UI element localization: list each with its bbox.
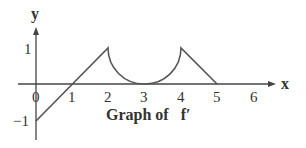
x-axis-arrow-icon [268, 81, 276, 87]
chart-title: Graph of f′ [106, 106, 191, 124]
chart-title-text: Graph of [106, 106, 169, 124]
x-tick-0: 0 [32, 89, 40, 105]
x-tick-6: 6 [250, 89, 258, 105]
y-tick-1: 1 [24, 41, 32, 57]
x-tick-3: 3 [140, 89, 148, 105]
y-axis-label: y [31, 5, 39, 23]
chart-title-function: f′ [181, 106, 191, 123]
y-tick-neg1: −1 [13, 113, 29, 129]
x-axis-label: x [281, 75, 289, 92]
y-axis-arrow-icon [33, 27, 39, 35]
x-tick-2: 2 [104, 89, 112, 105]
graph-of-f-prime: x y 0 1 2 3 4 5 6 1 −1 Graph of f′ [0, 0, 306, 148]
x-tick-5: 5 [213, 89, 221, 105]
x-tick-1: 1 [68, 89, 76, 105]
x-tick-4: 4 [177, 89, 185, 105]
